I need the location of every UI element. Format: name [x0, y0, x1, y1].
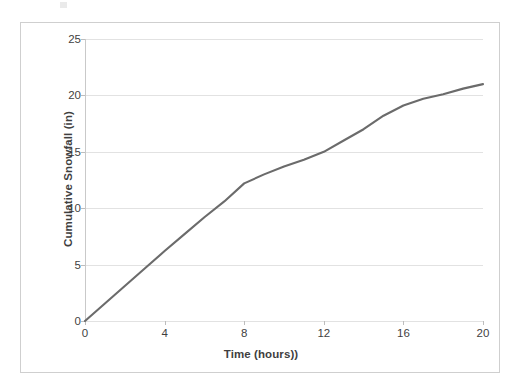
series-cumulative-snowfall — [85, 84, 483, 321]
x-tick-label-16: 16 — [383, 327, 423, 339]
y-tick-label-25: 25 — [51, 33, 81, 45]
x-tick-label-20: 20 — [463, 327, 503, 339]
x-tick-mark-20 — [483, 321, 484, 325]
plot-area — [85, 39, 483, 321]
x-tick-label-8: 8 — [224, 327, 264, 339]
y-tick-label-0: 0 — [51, 315, 81, 327]
x-tick-label-0: 0 — [65, 327, 105, 339]
x-axis-title: Time (hours)) — [21, 348, 501, 360]
gridline-y-0 — [85, 321, 483, 322]
y-tick-label-5: 5 — [51, 259, 81, 271]
x-tick-label-12: 12 — [304, 327, 344, 339]
chart-frame: Cumulative Snowfall (in) 0510152025 0481… — [20, 22, 500, 373]
x-tick-mark-16 — [403, 321, 404, 325]
y-tick-label-20: 20 — [51, 89, 81, 101]
x-axis-tick-labels: 048121620 — [85, 327, 483, 345]
x-tick-label-4: 4 — [145, 327, 185, 339]
y-tick-label-10: 10 — [51, 202, 81, 214]
data-line-series — [85, 39, 483, 321]
scan-artifact — [60, 2, 67, 8]
x-tick-mark-4 — [165, 321, 166, 325]
x-tick-mark-8 — [244, 321, 245, 325]
y-tick-label-15: 15 — [51, 146, 81, 158]
y-axis-tick-labels: 0510152025 — [51, 23, 81, 374]
x-tick-mark-12 — [324, 321, 325, 325]
